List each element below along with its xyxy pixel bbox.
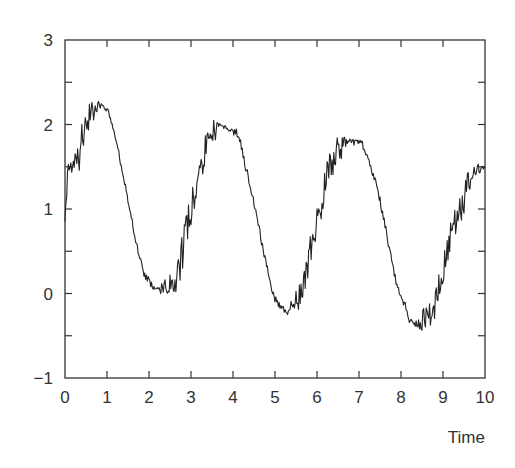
x-tick-label: 2	[144, 388, 153, 407]
x-tick-label: 7	[354, 388, 363, 407]
x-tick-label: 8	[396, 388, 405, 407]
x-tick-label: 4	[228, 388, 237, 407]
x-tick-label: 3	[186, 388, 195, 407]
x-tick-label: 1	[102, 388, 111, 407]
x-tick-label: 6	[312, 388, 321, 407]
y-tick-label: 2	[44, 116, 53, 135]
line-chart: 012345678910 −10123 Time	[0, 0, 515, 468]
y-tick-label: −1	[34, 369, 53, 388]
y-tick-label: 1	[44, 200, 53, 219]
x-axis-label: Time	[448, 428, 485, 447]
x-tick-label: 0	[60, 388, 69, 407]
x-tick-label: 9	[438, 388, 447, 407]
y-tick-label: 3	[44, 31, 53, 50]
x-tick-label: 10	[476, 388, 495, 407]
x-tick-label: 5	[270, 388, 279, 407]
y-tick-label: 0	[44, 285, 53, 304]
